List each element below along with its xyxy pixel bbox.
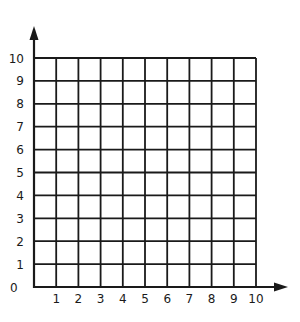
x-tick-label: 8 <box>208 292 216 306</box>
x-tick-label: 10 <box>248 292 263 306</box>
y-tick-label: 4 <box>16 189 24 203</box>
coordinate-grid: 12345678910 12345678910 0 <box>0 0 300 322</box>
y-tick-label: 3 <box>16 212 24 226</box>
y-tick-label: 9 <box>16 74 24 88</box>
x-tick-label: 6 <box>163 292 171 306</box>
y-axis-tick-labels: 12345678910 <box>9 52 24 272</box>
y-axis-arrow-icon <box>30 26 39 40</box>
y-tick-label: 7 <box>16 120 24 134</box>
x-tick-label: 5 <box>141 292 149 306</box>
x-tick-label: 3 <box>97 292 105 306</box>
x-axis-tick-labels: 12345678910 <box>52 292 263 306</box>
x-tick-label: 7 <box>186 292 194 306</box>
x-tick-label: 1 <box>52 292 60 306</box>
grid-lines <box>34 58 256 287</box>
y-tick-label: 1 <box>16 258 24 272</box>
x-tick-label: 2 <box>75 292 83 306</box>
y-tick-label: 5 <box>16 166 24 180</box>
axes <box>30 26 289 292</box>
origin-label: 0 <box>10 281 18 295</box>
y-tick-label: 10 <box>9 52 24 66</box>
y-tick-label: 6 <box>16 143 24 157</box>
x-tick-label: 9 <box>230 292 238 306</box>
x-tick-label: 4 <box>119 292 127 306</box>
y-tick-label: 8 <box>16 97 24 111</box>
x-axis-arrow-icon <box>274 283 288 292</box>
y-tick-label: 2 <box>16 235 24 249</box>
